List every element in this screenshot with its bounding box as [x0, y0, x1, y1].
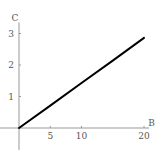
line-chart: 51020 123 B C: [0, 0, 156, 158]
series-group: [19, 38, 144, 128]
x-tick-label: 20: [138, 131, 150, 141]
x-axis-label: B: [148, 118, 155, 128]
x-tick-label: 10: [76, 131, 88, 141]
series-line: [19, 38, 144, 128]
y-tick-label: 3: [8, 29, 14, 39]
y-axis-label: C: [12, 13, 19, 23]
y-tick-label: 2: [8, 60, 14, 70]
axes: [0, 22, 149, 150]
y-tick-label: 1: [8, 92, 14, 102]
x-tick-label: 5: [47, 131, 53, 141]
